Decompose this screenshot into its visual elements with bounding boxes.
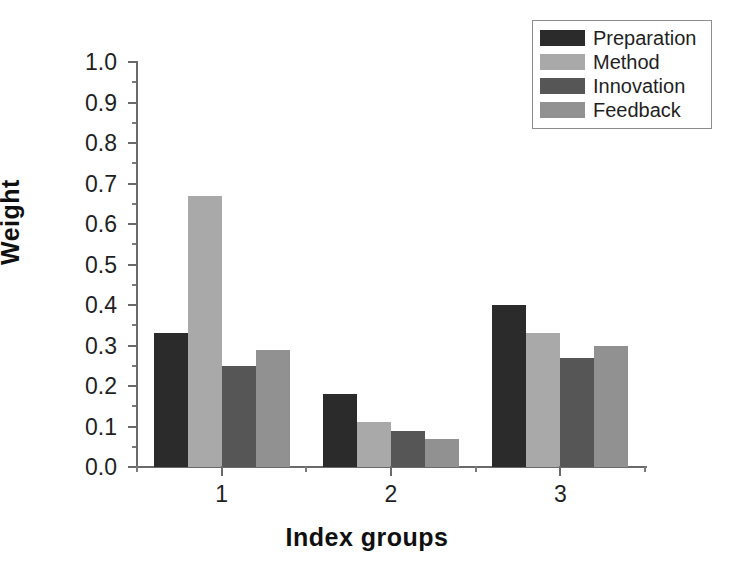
bar <box>594 346 628 468</box>
legend-item[interactable]: Method <box>540 50 704 74</box>
bar-chart: Weight 0.00.10.20.30.40.50.60.70.80.91.0… <box>0 0 734 580</box>
legend-item-label: Method <box>593 52 660 72</box>
legend: PreparationMethodInnovationFeedback <box>532 20 712 129</box>
x-axis-major-tick <box>559 466 561 476</box>
y-axis-tick-label: 1.0 <box>85 49 117 76</box>
x-axis-major-tick <box>390 466 392 476</box>
y-axis-ticks <box>121 0 137 580</box>
legend-item[interactable]: Preparation <box>540 26 704 50</box>
y-axis-tick-label: 0.1 <box>85 413 117 440</box>
x-axis-tick-label: 3 <box>554 481 567 508</box>
y-axis-tick-labels: 0.00.10.20.30.40.50.60.70.80.91.0 <box>0 0 137 580</box>
bar <box>188 196 222 467</box>
legend-item[interactable]: Innovation <box>540 74 704 98</box>
y-axis-tick-label: 0.4 <box>85 292 117 319</box>
legend-swatch-icon <box>540 78 585 94</box>
bar <box>256 350 290 467</box>
x-axis-title: Index groups <box>0 523 734 552</box>
y-axis-tick-label: 0.9 <box>85 89 117 116</box>
x-axis-tick-label: 2 <box>385 481 398 508</box>
x-axis-minor-tick <box>475 466 477 472</box>
bar <box>425 439 459 467</box>
legend-item-label: Feedback <box>593 100 681 120</box>
x-axis-minor-tick <box>136 466 138 472</box>
y-axis-tick-label: 0.8 <box>85 130 117 157</box>
y-axis-tick-label: 0.2 <box>85 373 117 400</box>
legend-swatch-icon <box>540 30 585 46</box>
legend-item[interactable]: Feedback <box>540 98 704 122</box>
bar <box>323 394 357 467</box>
legend-item-label: Innovation <box>593 76 685 96</box>
legend-item-label: Preparation <box>593 28 696 48</box>
x-axis-tick-label: 1 <box>215 481 228 508</box>
bar <box>492 305 526 467</box>
bar <box>154 333 188 467</box>
y-axis-tick-label: 0.5 <box>85 251 117 278</box>
bar <box>391 431 425 467</box>
x-axis-minor-tick <box>644 466 646 472</box>
bar <box>526 333 560 467</box>
bar <box>222 366 256 467</box>
x-axis-minor-tick <box>305 466 307 472</box>
legend-swatch-icon <box>540 54 585 70</box>
bar <box>560 358 594 467</box>
y-axis-tick-label: 0.3 <box>85 332 117 359</box>
x-axis-major-tick <box>221 466 223 476</box>
y-axis-tick-label: 0.0 <box>85 454 117 481</box>
legend-swatch-icon <box>540 102 585 118</box>
y-axis-tick-label: 0.7 <box>85 170 117 197</box>
bar <box>357 422 391 467</box>
y-axis-tick-label: 0.6 <box>85 211 117 238</box>
